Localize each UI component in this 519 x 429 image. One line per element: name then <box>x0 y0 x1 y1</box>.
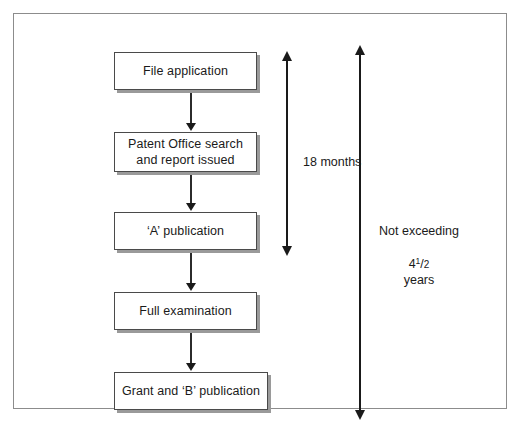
duration-label-text: 18 months <box>303 155 361 169</box>
arrow-stem <box>286 55 288 252</box>
duration-label-unit: years <box>404 273 435 287</box>
duration-arrow-max-total <box>353 45 367 420</box>
arrow-down-icon <box>355 410 365 420</box>
fraction-denominator: 2 <box>424 259 430 270</box>
flow-node-a-publication[interactable]: ‘A’ publication <box>114 212 257 250</box>
duration-label-line1: Not exceeding <box>379 224 459 238</box>
duration-label-18-months: 18 months <box>303 138 361 171</box>
flow-node-label: File application <box>137 63 234 80</box>
flow-connector-arrow-3 <box>185 253 197 292</box>
flow-node-grant-and-b-publication[interactable]: Grant and ‘B’ publication <box>114 372 268 410</box>
connector-stem <box>190 93 192 124</box>
duration-arrow-18-months <box>280 51 294 256</box>
flow-node-patent-office-search[interactable]: Patent Office search and report issued <box>114 132 257 172</box>
flow-node-label: Full examination <box>133 303 238 320</box>
arrow-down-icon <box>186 203 196 211</box>
connector-stem <box>190 175 192 204</box>
flow-connector-arrow-2 <box>185 175 197 212</box>
flowchart-figure: File application Patent Office search an… <box>0 0 519 429</box>
fraction-whole: 4 <box>409 257 416 271</box>
flow-connector-arrow-1 <box>185 93 197 132</box>
connector-stem <box>190 253 192 284</box>
duration-label-fraction: 41/2 <box>409 257 430 271</box>
arrow-down-icon <box>186 123 196 131</box>
flow-node-label: Grant and ‘B’ publication <box>116 383 266 400</box>
arrow-down-icon <box>186 363 196 371</box>
flow-connector-arrow-4 <box>185 333 197 372</box>
flow-node-full-examination[interactable]: Full examination <box>114 292 257 330</box>
arrow-down-icon <box>282 246 292 256</box>
arrow-stem <box>359 49 361 416</box>
flow-node-label: ‘A’ publication <box>141 223 230 240</box>
arrow-down-icon <box>186 283 196 291</box>
duration-label-max-total: Not exceeding 41/2 years <box>371 207 467 288</box>
connector-stem <box>190 333 192 364</box>
flow-node-label: Patent Office search and report issued <box>122 136 249 169</box>
figure-frame: File application Patent Office search an… <box>13 13 507 409</box>
flow-node-file-application[interactable]: File application <box>114 52 257 90</box>
